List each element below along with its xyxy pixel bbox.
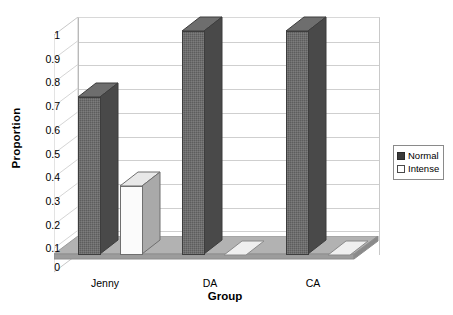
y-tick-1: 1 (30, 30, 60, 40)
legend-item-intense[interactable]: Intense (397, 163, 439, 175)
x-tick-ca: CA (273, 277, 353, 289)
legend-label-intense: Intense (408, 164, 439, 174)
bar-jenny-intense[interactable] (120, 186, 143, 255)
y-tick-0.3: 0.3 (30, 196, 60, 206)
y-tick-0.4: 0.4 (30, 172, 60, 182)
gridline-0.7 (79, 89, 379, 90)
chart-legend: Normal Intense (393, 145, 444, 180)
x-tick-da: DA (170, 277, 250, 289)
bar-chart: 1 0.9 0.8 0.7 0.6 0.5 0.4 0.3 0.2 0.1 0 … (0, 0, 453, 315)
legend-item-normal[interactable]: Normal (397, 150, 439, 162)
y-tick-0.8: 0.8 (30, 77, 60, 87)
x-axis-title: Group (165, 290, 285, 302)
y-axis-ticks: 1 0.9 0.8 0.7 0.6 0.5 0.4 0.3 0.2 0.1 0 (16, 0, 60, 315)
legend-label-normal: Normal (408, 151, 439, 161)
y-tick-0.1: 0.1 (30, 243, 60, 253)
y-tick-0.5: 0.5 (30, 149, 60, 159)
y-tick-0.2: 0.2 (30, 220, 60, 230)
gridline-0.5 (79, 137, 379, 138)
legend-swatch-normal-icon (397, 152, 405, 160)
gridline-0.6 (79, 113, 379, 114)
y-tick-0.9: 0.9 (30, 54, 60, 64)
x-tick-jenny: Jenny (65, 277, 145, 289)
y-axis-title: Proportion (10, 98, 22, 178)
y-tick-0.7: 0.7 (30, 101, 60, 111)
bar-da-normal[interactable] (182, 31, 205, 255)
y-tick-0.6: 0.6 (30, 125, 60, 135)
bar-ca-intense-3d-faces[interactable] (328, 241, 372, 261)
y-tick-0: 0 (30, 262, 60, 272)
legend-swatch-intense-icon (397, 165, 405, 173)
gridline-0.4 (79, 160, 379, 161)
bar-jenny-normal[interactable] (78, 97, 101, 255)
gridline-0.8 (79, 65, 379, 66)
bar-da-intense-3d-faces[interactable] (224, 241, 268, 261)
gridline-0.9 (79, 42, 379, 43)
bar-ca-normal[interactable] (286, 31, 309, 255)
